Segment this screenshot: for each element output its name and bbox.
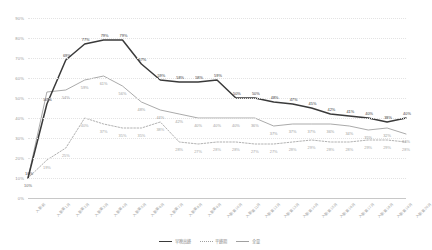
gridline xyxy=(28,18,406,19)
y-axis-tick-label: 80% xyxy=(15,36,24,41)
y-axis-tick-label: 90% xyxy=(15,16,24,21)
x-axis-tick-label: 入职第19月 xyxy=(396,201,414,219)
x-axis-tick-label: 入职第2月 xyxy=(74,201,90,217)
data-point-label: 28% xyxy=(232,146,240,151)
y-axis-tick-label: 0% xyxy=(18,196,24,201)
x-axis-tick-label: 入职第9月 xyxy=(206,201,222,217)
data-point-label: 59% xyxy=(214,72,222,77)
data-point-label: 34% xyxy=(402,138,410,143)
data-point-label: 59% xyxy=(81,84,89,89)
y-axis-tick-label: 10% xyxy=(15,176,24,181)
data-point-label: 59% xyxy=(157,72,165,77)
data-point-label: 38% xyxy=(156,126,164,131)
data-point-label: 25% xyxy=(62,152,70,157)
data-point-label: 40% xyxy=(81,122,89,127)
x-axis-tick-label: 入职第16月 xyxy=(339,201,357,219)
legend-item-0[interactable]: 早晚高峰 xyxy=(159,238,191,244)
chart-legend: 早晚高峰平峰期全量 xyxy=(0,234,419,248)
legend-swatch-icon xyxy=(159,241,172,242)
data-point-label: 28% xyxy=(289,146,297,151)
data-point-label: 10% xyxy=(25,170,33,175)
data-point-label: 47% xyxy=(290,96,298,101)
data-point-label: 37% xyxy=(308,128,316,133)
data-point-label: 37% xyxy=(289,128,297,133)
data-point-label: 79% xyxy=(120,32,128,37)
legend-label: 平峰期 xyxy=(215,238,227,244)
data-point-label: 27% xyxy=(251,148,259,153)
data-point-label: 10% xyxy=(24,182,32,187)
data-point-label: 27% xyxy=(194,148,202,153)
y-axis-tick-label: 50% xyxy=(15,96,24,101)
data-point-label: 35% xyxy=(137,132,145,137)
y-axis-tick-label: 20% xyxy=(15,156,24,161)
data-point-label: 77% xyxy=(82,36,90,41)
data-point-label: 28% xyxy=(345,146,353,151)
data-point-label: 44% xyxy=(156,114,164,119)
data-point-label: 54% xyxy=(62,94,70,99)
data-point-label: 28% xyxy=(213,146,221,151)
x-axis-tick-label: 入职第18月 xyxy=(377,201,395,219)
gridline xyxy=(28,158,406,159)
legend-item-2[interactable]: 全量 xyxy=(236,238,260,244)
y-axis-tick-label: 70% xyxy=(15,56,24,61)
x-axis-tick-label: 入职第12月 xyxy=(263,201,281,219)
data-point-label: 40% xyxy=(403,110,411,115)
data-point-label: 28% xyxy=(326,146,334,151)
x-axis-line xyxy=(28,198,406,199)
data-point-label: 28% xyxy=(402,146,410,151)
data-point-label: 41% xyxy=(346,108,354,113)
data-point-label: 69% xyxy=(63,52,71,57)
data-point-label: 56% xyxy=(119,90,127,95)
data-point-label: 40% xyxy=(194,122,202,127)
data-point-label: 36% xyxy=(251,122,259,127)
legend-swatch-icon xyxy=(200,241,213,242)
data-point-label: 19% xyxy=(43,164,51,169)
data-point-label: 48% xyxy=(271,94,279,99)
y-axis-tick-label: 60% xyxy=(15,76,24,81)
gridline xyxy=(28,118,406,119)
legend-label: 早晚高峰 xyxy=(175,238,191,244)
x-axis-tick-label: 入职第5月 xyxy=(130,201,146,217)
data-point-label: 42% xyxy=(175,118,183,123)
y-axis-labels: 90%80%70%60%50%40%30%20%10%0% xyxy=(0,18,26,198)
data-point-label: 34% xyxy=(345,130,353,135)
data-point-label: 35% xyxy=(119,132,127,137)
data-point-label: 61% xyxy=(100,80,108,85)
legend-swatch-icon xyxy=(236,241,249,242)
data-point-label: 38% xyxy=(384,114,392,119)
y-axis-tick-label: 40% xyxy=(15,116,24,121)
gridline xyxy=(28,78,406,79)
data-point-label: 53% xyxy=(43,96,51,101)
data-point-label: 36% xyxy=(326,128,334,133)
data-point-label: 58% xyxy=(195,74,203,79)
gridline xyxy=(28,178,406,179)
data-point-label: 29% xyxy=(364,144,372,149)
x-axis-tick-label: 入职第14月 xyxy=(301,201,319,219)
x-axis-tick-label: 入职第15月 xyxy=(320,201,338,219)
data-point-label: 42% xyxy=(327,106,335,111)
data-point-label: 50% xyxy=(252,90,260,95)
data-point-label: 37% xyxy=(100,128,108,133)
x-axis-tick-label: 入职第11月 xyxy=(244,201,261,218)
x-axis-tick-label: 入职第4月 xyxy=(111,201,127,217)
x-axis-labels: 入职前入职第1月入职第2月入职第3月入职第4月入职第5月入职第6月入职第7月入职… xyxy=(28,200,406,234)
data-point-label: 67% xyxy=(138,56,146,61)
data-point-label: 45% xyxy=(309,100,317,105)
data-point-label: 40% xyxy=(232,122,240,127)
data-point-label: 27% xyxy=(270,148,278,153)
legend-item-1[interactable]: 平峰期 xyxy=(200,238,228,244)
x-axis-tick-label: 入职第6月 xyxy=(149,201,165,217)
x-axis-tick-label: 入职第20月 xyxy=(414,201,432,219)
gridline xyxy=(28,98,406,99)
data-point-label: 35% xyxy=(364,134,372,139)
x-axis-tick-label: 入职第3月 xyxy=(93,201,109,217)
x-axis-tick-label: 入职第13月 xyxy=(282,201,300,219)
x-axis-tick-label: 入职第1月 xyxy=(55,201,71,217)
data-point-label: 79% xyxy=(101,32,109,37)
x-axis-tick-label: 入职第8月 xyxy=(187,201,203,217)
data-point-label: 40% xyxy=(213,122,221,127)
y-axis-tick-label: 30% xyxy=(15,136,24,141)
data-point-label: 40% xyxy=(365,110,373,115)
x-axis-tick-label: 入职第7月 xyxy=(168,201,184,217)
x-axis-tick-label: 入职前 xyxy=(34,201,46,213)
